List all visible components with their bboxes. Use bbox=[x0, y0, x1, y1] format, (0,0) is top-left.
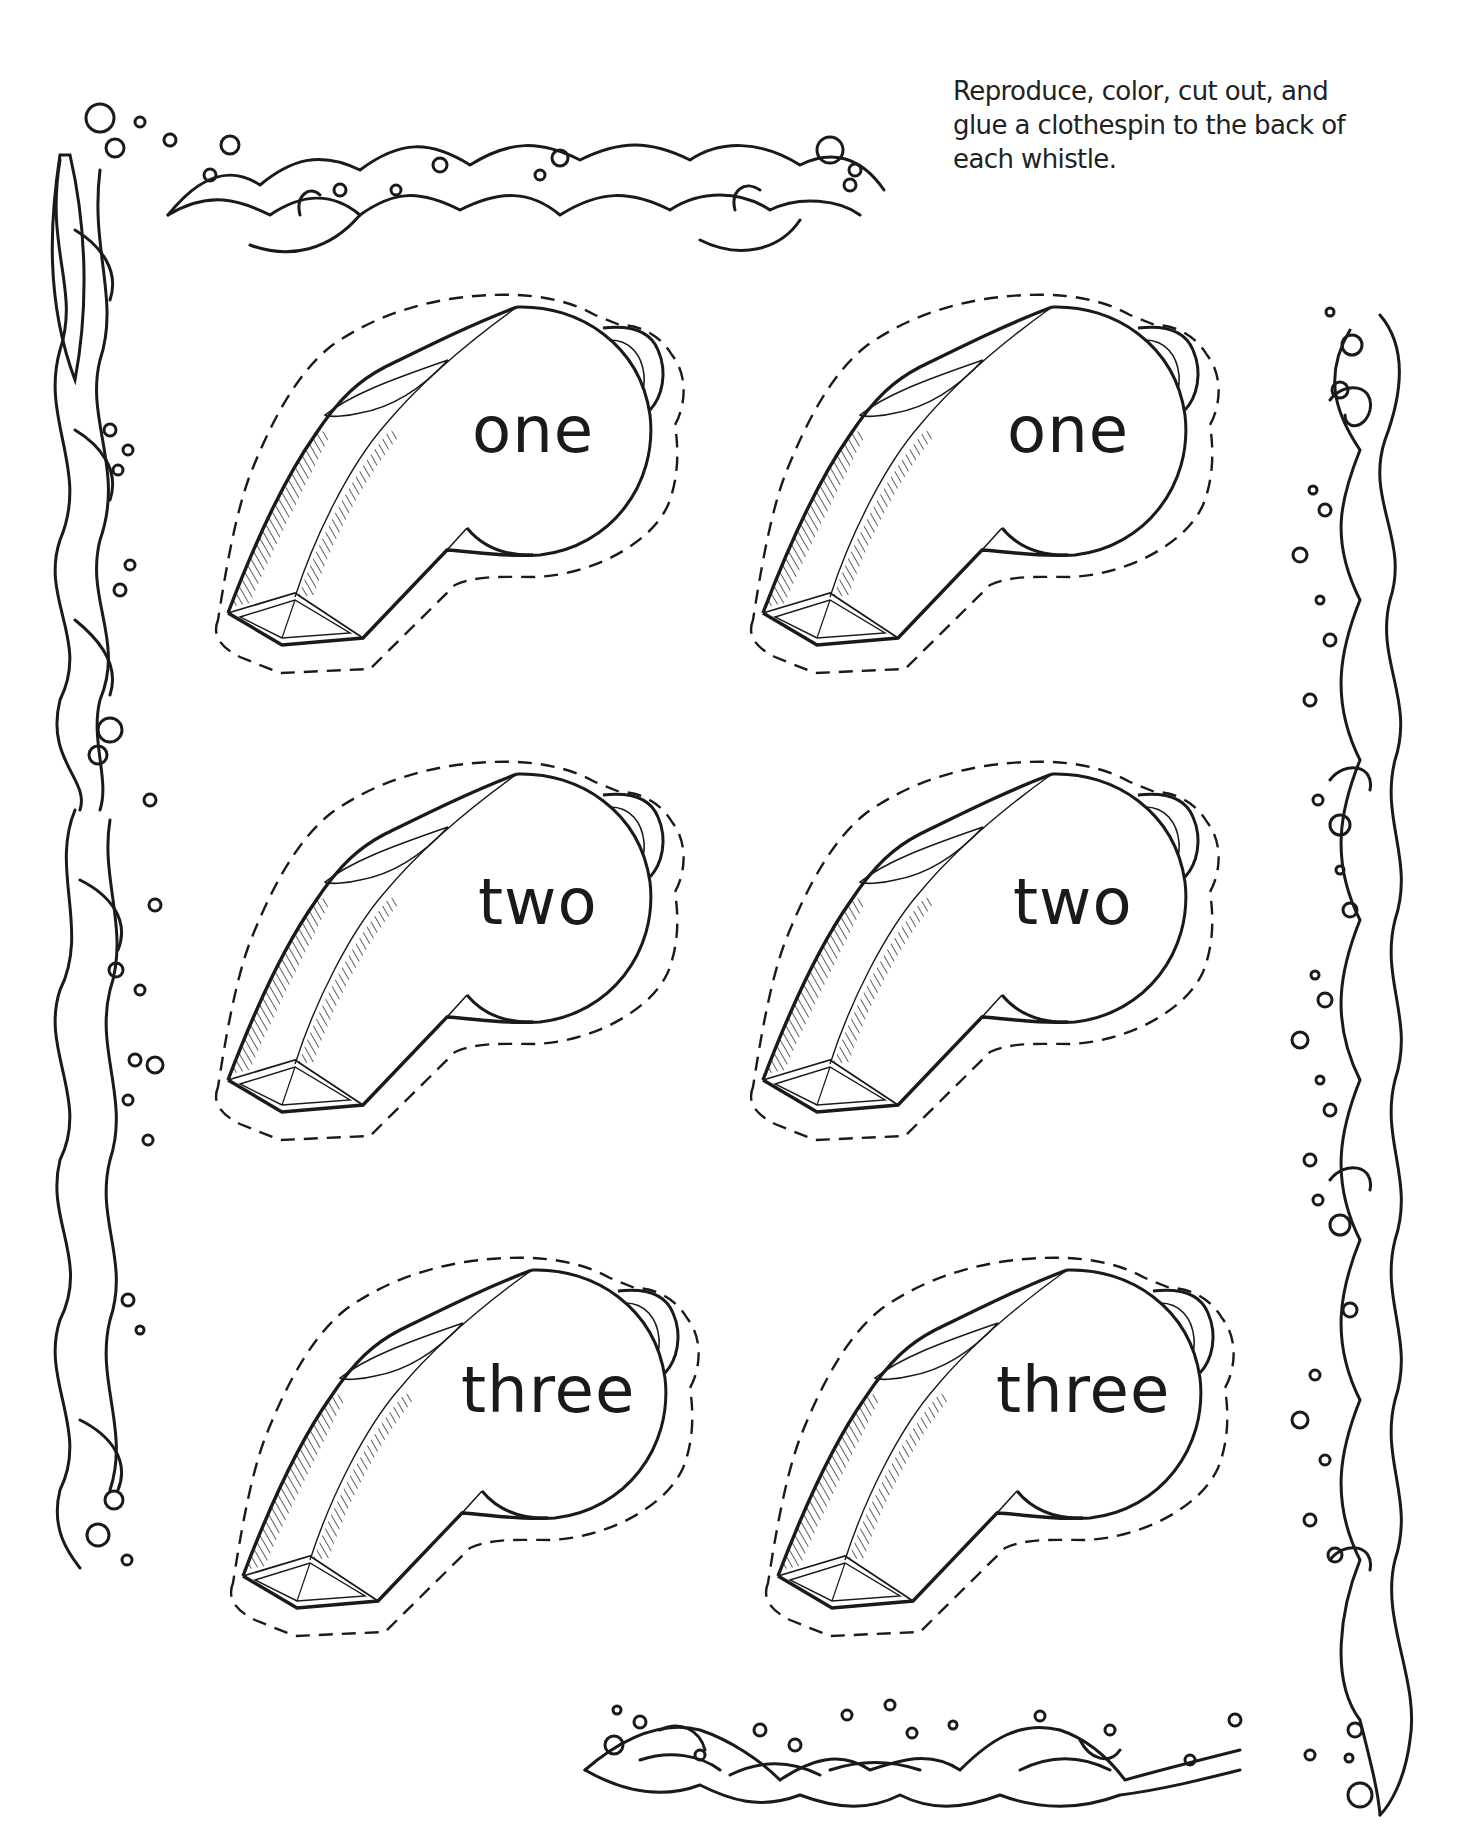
wave-border-decoration bbox=[0, 0, 1466, 1845]
right-wave-border bbox=[1292, 308, 1412, 1815]
bottom-wave-border bbox=[585, 1700, 1372, 1807]
worksheet-page: Reproduce, color, cut out, and glue a cl… bbox=[0, 0, 1466, 1845]
top-wave-border bbox=[52, 104, 884, 380]
